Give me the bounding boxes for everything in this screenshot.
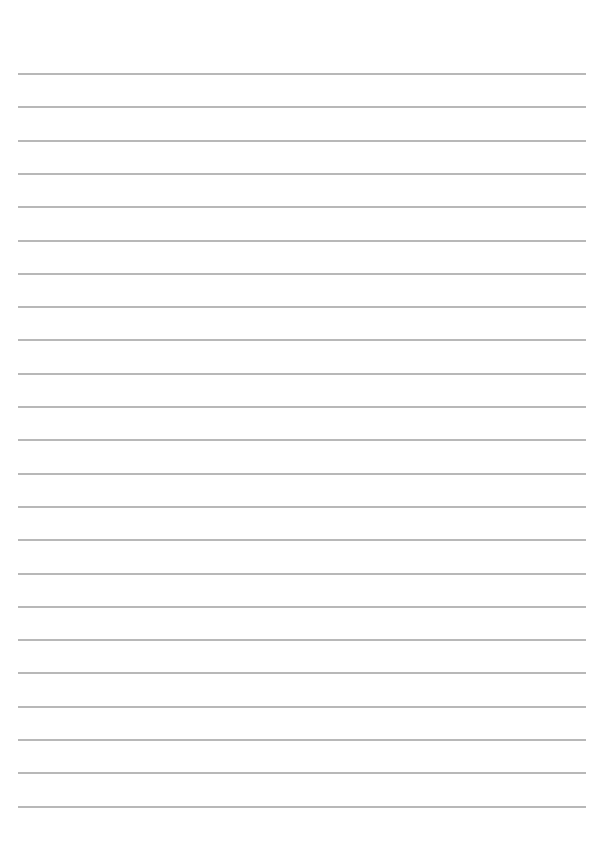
ruled-line — [18, 273, 586, 275]
ruled-line — [18, 606, 586, 608]
ruled-line — [18, 406, 586, 408]
ruled-line — [18, 672, 586, 674]
ruled-line — [18, 539, 586, 541]
ruled-line — [18, 306, 586, 308]
ruled-line — [18, 439, 586, 441]
ruled-line — [18, 706, 586, 708]
ruled-line — [18, 106, 586, 108]
ruled-line — [18, 73, 586, 75]
ruled-line — [18, 173, 586, 175]
ruled-line — [18, 339, 586, 341]
ruled-line — [18, 739, 586, 741]
ruled-line — [18, 206, 586, 208]
ruled-line — [18, 240, 586, 242]
ruled-line — [18, 373, 586, 375]
ruled-line — [18, 806, 586, 808]
ruled-line — [18, 573, 586, 575]
ruled-line — [18, 772, 586, 774]
ruled-line — [18, 140, 586, 142]
ruled-line — [18, 506, 586, 508]
ruled-line — [18, 639, 586, 641]
ruled-line — [18, 473, 586, 475]
